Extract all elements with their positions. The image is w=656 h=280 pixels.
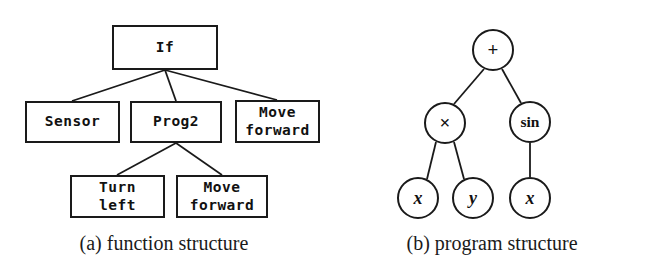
edge-times-to-var-y xyxy=(454,142,464,179)
node-label-line2: left xyxy=(99,197,136,214)
node-plus: + xyxy=(472,29,514,71)
figure-page: If Sensor Prog2 Move forward Turn left M… xyxy=(0,0,656,280)
node-label-line1: Turn xyxy=(99,179,136,196)
edge-times-to-var-x-left xyxy=(427,142,436,179)
node-var-x-right: x xyxy=(509,177,551,219)
node-times: × xyxy=(424,102,466,144)
node-label: Sensor xyxy=(45,113,100,130)
edge-plus-to-times xyxy=(454,69,484,104)
node-sin: sin xyxy=(509,101,551,143)
node-label: × xyxy=(440,112,451,134)
edge-root-to-prog2 xyxy=(165,70,176,101)
node-move-forward-1: Move forward xyxy=(235,100,320,143)
edge-root-to-sensor xyxy=(72,70,165,101)
node-move-forward-2: Move forward xyxy=(176,175,268,218)
node-label: Prog2 xyxy=(153,113,199,130)
figure-program-structure: + × sin x y x (b) program structure xyxy=(328,0,656,280)
node-var-x-left: x xyxy=(397,177,439,219)
node-prog2: Prog2 xyxy=(130,101,222,143)
node-label: If xyxy=(156,39,174,56)
node-label: sin xyxy=(521,113,540,131)
caption-b: (b) program structure xyxy=(328,232,656,255)
node-if: If xyxy=(112,25,218,70)
node-label-line1: Move xyxy=(259,104,296,121)
node-label: x xyxy=(414,188,423,209)
edge-root-to-move-forward-1 xyxy=(165,70,277,100)
node-label-line1: Move xyxy=(204,179,241,196)
node-label-line2: forward xyxy=(190,197,255,214)
node-var-y: y xyxy=(452,177,494,219)
figure-function-structure: If Sensor Prog2 Move forward Turn left M… xyxy=(0,0,328,280)
node-label: + xyxy=(488,39,499,61)
node-sensor: Sensor xyxy=(25,101,120,143)
node-label-line2: forward xyxy=(245,122,310,139)
edge-prog2-to-turn-left xyxy=(117,143,176,175)
caption-a: (a) function structure xyxy=(0,232,328,255)
node-turn-left: Turn left xyxy=(70,175,165,218)
node-label: x xyxy=(526,188,535,209)
edge-plus-to-sin xyxy=(502,69,521,103)
edge-prog2-to-move-forward-2 xyxy=(176,143,222,175)
node-label: y xyxy=(469,188,477,209)
